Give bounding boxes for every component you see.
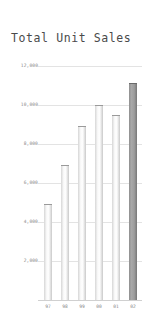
bar-97[interactable] [44,204,52,300]
xtick-label-02: 02 [125,304,141,309]
bar-98[interactable] [61,165,69,300]
gridline-8000 [38,144,142,145]
ytick-label-4000: 4,000 [24,219,38,224]
bar-02[interactable] [129,83,137,300]
gridline-2000 [38,261,142,262]
chart-container: Total Unit Sales 12,000 10,000 8,000 6,0… [0,0,146,320]
xtick-label-99: 99 [74,304,90,309]
gridline-12000 [38,66,142,67]
xtick-label-98: 98 [57,304,73,309]
xtick-label-97: 97 [40,304,56,309]
ytick-label-6000: 6,000 [24,180,38,185]
ytick-label-8000: 8,000 [24,141,38,146]
ytick-label-10000: 10,000 [21,102,38,107]
ytick-label-2000: 2,000 [24,258,38,263]
x-axis-baseline [38,300,142,301]
bar-99[interactable] [78,126,86,300]
bar-01[interactable] [112,115,120,300]
gridline-4000 [38,222,142,223]
xtick-label-01: 01 [108,304,124,309]
bar-00[interactable] [95,105,103,300]
ytick-label-12000: 12,000 [21,63,38,68]
gridline-10000 [38,105,142,106]
gridline-6000 [38,183,142,184]
plot-area: 12,000 10,000 8,000 6,000 4,000 2,000 97… [0,0,146,320]
xtick-label-00: 00 [91,304,107,309]
